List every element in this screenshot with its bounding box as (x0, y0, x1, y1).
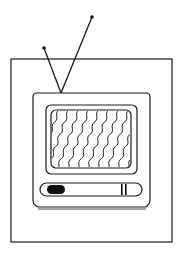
knob-icon (47, 185, 65, 194)
tv-svg (0, 0, 183, 255)
antenna-icon (44, 17, 92, 93)
button-bar-2 (125, 184, 127, 195)
antenna-tip-left (42, 46, 46, 50)
antenna-tip-right (90, 15, 94, 19)
button-bar-1 (121, 184, 123, 195)
tv-illustration (0, 0, 183, 255)
